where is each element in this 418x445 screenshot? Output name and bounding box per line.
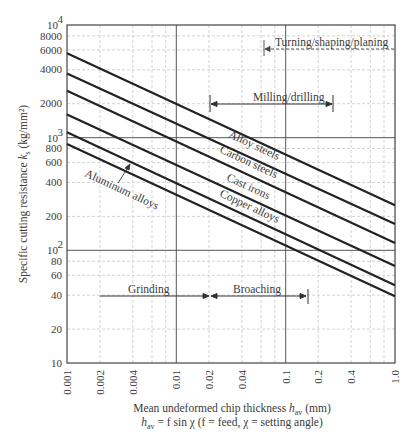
svg-text:0.2: 0.2	[312, 370, 324, 384]
label-milling: Milling/drilling	[253, 91, 325, 104]
x-axis-label-formula: hav = f sin χ (f = feed, χ = setting ang…	[141, 416, 323, 431]
label-aluminum-alloys: Aluminum alloys	[83, 167, 162, 213]
svg-text:0.001: 0.001	[61, 370, 73, 395]
svg-text:0.04: 0.04	[236, 370, 248, 390]
svg-text:0.02: 0.02	[203, 370, 215, 389]
y-axis-label: Specific cutting resistance ks (kg/mm²)	[17, 105, 32, 284]
svg-text:1.0: 1.0	[389, 370, 401, 384]
svg-text:4: 4	[58, 13, 64, 25]
svg-text:400: 400	[46, 176, 63, 188]
svg-text:200: 200	[46, 210, 63, 222]
svg-text:60: 60	[51, 269, 63, 281]
svg-text:2000: 2000	[40, 97, 63, 109]
svg-text:80: 80	[51, 255, 63, 267]
svg-text:0.1: 0.1	[280, 370, 292, 384]
label-turning: Turning/shaping/planing	[275, 36, 389, 49]
svg-text:4000: 4000	[40, 63, 63, 75]
svg-text:20: 20	[51, 323, 63, 335]
x-tick-labels: 0.001 0.002 0.004 0.01 0.02 0.04 0.1 0.2…	[61, 370, 401, 395]
svg-text:0.002: 0.002	[94, 370, 106, 395]
label-grinding: Grinding	[128, 283, 170, 296]
svg-text:10: 10	[51, 357, 63, 369]
svg-text:8000: 8000	[40, 30, 63, 42]
y-tick-labels: 10 20 40 60 80 10 2 200 400 600 800 10 3…	[40, 13, 64, 369]
label-broaching: Broaching	[233, 283, 281, 296]
svg-text:0.4: 0.4	[345, 370, 357, 384]
chart: Alloy steels Carbon steels Cast irons Co…	[0, 0, 418, 445]
svg-text:600: 600	[46, 156, 63, 168]
svg-text:3: 3	[58, 126, 64, 138]
svg-text:0.004: 0.004	[127, 370, 139, 395]
svg-text:2: 2	[58, 238, 64, 250]
svg-text:0.01: 0.01	[170, 370, 182, 389]
svg-text:6000: 6000	[40, 44, 63, 56]
x-axis-label: Mean undeformed chip thickness hav (mm)	[133, 402, 331, 417]
svg-text:40: 40	[51, 289, 63, 301]
